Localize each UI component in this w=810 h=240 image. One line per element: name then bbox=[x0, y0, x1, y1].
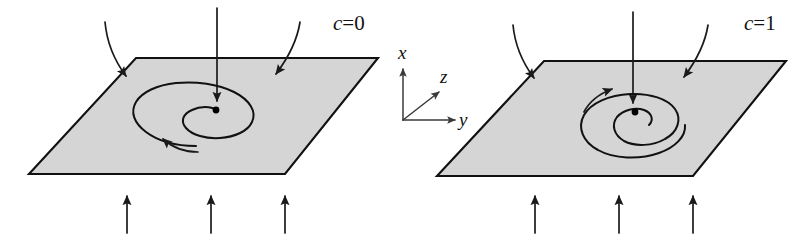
inflow-arrow-left-1 bbox=[105, 22, 126, 76]
fixed-point-right bbox=[632, 109, 639, 116]
case-label-right-value: 1 bbox=[765, 11, 776, 35]
plane-right bbox=[437, 61, 786, 176]
figure-root: c=0 x y bbox=[0, 0, 810, 240]
axis-x-label: x bbox=[397, 42, 407, 63]
panel-left: c=0 bbox=[29, 8, 378, 233]
fixed-point-left bbox=[213, 107, 220, 114]
inflow-arrow-right-1 bbox=[513, 25, 534, 78]
plane-left bbox=[29, 58, 378, 174]
axis-z-label: z bbox=[439, 66, 448, 87]
case-label-right-eq: = bbox=[753, 11, 765, 35]
case-label-left: c=0 bbox=[333, 11, 365, 35]
case-label-left-eq: = bbox=[342, 11, 354, 35]
case-label-right: c=1 bbox=[744, 11, 776, 35]
axis-triad: x y z bbox=[397, 42, 468, 130]
panel-right: c=1 bbox=[437, 11, 786, 233]
axis-z-line bbox=[403, 92, 439, 120]
axis-y-label: y bbox=[457, 109, 468, 130]
case-label-left-value: 0 bbox=[354, 11, 365, 35]
spiral-flow-diagram: c=0 x y bbox=[0, 0, 810, 240]
